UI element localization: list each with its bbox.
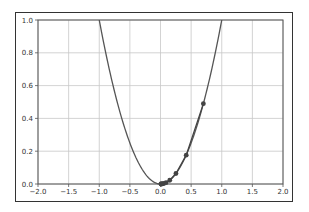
y-axis-ticks: 0.00.20.40.60.81.0: [22, 17, 38, 189]
y-tick-label: 0.0: [22, 181, 33, 189]
grid-lines: [38, 20, 283, 184]
x-tick-label: 0.5: [186, 188, 197, 196]
data-point: [201, 101, 206, 106]
x-tick-label: 2.0: [277, 188, 288, 196]
data-point: [174, 171, 179, 176]
y-tick-label: 0.2: [22, 148, 33, 156]
y-tick-label: 0.6: [22, 82, 34, 90]
data-point: [184, 153, 189, 158]
x-tick-label: 1.5: [247, 188, 258, 196]
y-tick-label: 0.8: [22, 49, 33, 57]
descent-path: [161, 104, 203, 184]
y-tick-label: 0.4: [22, 115, 34, 123]
x-tick-label: 0.0: [155, 188, 166, 196]
x-axis-ticks: −2.0−1.5−1.0−0.50.00.51.01.52.0: [30, 184, 289, 196]
x-tick-label: 1.0: [216, 188, 227, 196]
chart: −2.0−1.5−1.0−0.50.00.51.01.52.0 0.00.20.…: [0, 0, 309, 212]
data-point: [159, 182, 164, 187]
x-tick-label: −2.0: [30, 188, 47, 196]
y-tick-label: 1.0: [22, 17, 33, 25]
data-point-markers: [159, 101, 206, 186]
x-tick-label: −0.5: [121, 188, 138, 196]
x-tick-label: −1.0: [91, 188, 108, 196]
x-tick-label: −1.5: [60, 188, 77, 196]
